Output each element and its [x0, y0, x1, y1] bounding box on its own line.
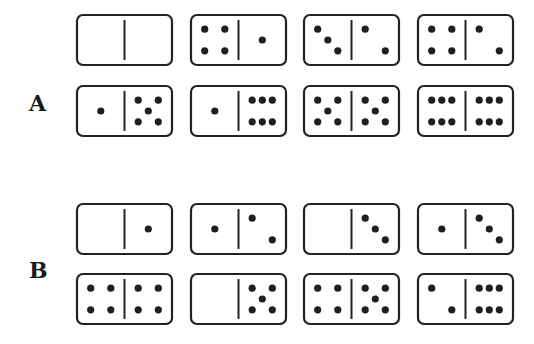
- pip-right: [382, 118, 389, 125]
- pip-right: [382, 306, 389, 313]
- pip-left: [211, 225, 218, 232]
- pip-right: [486, 225, 493, 232]
- domino-a-2-3: [304, 86, 399, 136]
- pip-right: [155, 97, 162, 104]
- pip-right: [269, 97, 276, 104]
- pip-right: [486, 97, 493, 104]
- pip-left: [448, 118, 455, 125]
- pip-right: [362, 306, 369, 313]
- pip-right: [145, 225, 152, 232]
- domino-b-2-1: [77, 274, 172, 324]
- pip-right: [249, 215, 256, 222]
- pip-right: [269, 285, 276, 292]
- pip-left: [334, 47, 341, 54]
- domino-b-2-3: [304, 274, 399, 324]
- pip-left: [438, 225, 445, 232]
- pip-right: [135, 118, 142, 125]
- pip-right: [372, 295, 379, 302]
- pip-right: [476, 97, 483, 104]
- pip-left: [334, 118, 341, 125]
- pip-left: [314, 26, 321, 33]
- pip-left: [324, 36, 331, 43]
- pip-left: [87, 285, 94, 292]
- pip-right: [382, 47, 389, 54]
- pip-left: [334, 97, 341, 104]
- domino-b-2-2: [191, 274, 286, 324]
- pip-right: [155, 285, 162, 292]
- pip-right: [486, 118, 493, 125]
- pip-left: [314, 118, 321, 125]
- pip-right: [155, 118, 162, 125]
- pip-left: [97, 107, 104, 114]
- pip-right: [249, 306, 256, 313]
- pip-right: [362, 215, 369, 222]
- pip-right: [135, 306, 142, 313]
- pip-right: [476, 118, 483, 125]
- pip-right: [372, 107, 379, 114]
- pip-right: [496, 236, 503, 243]
- pip-left: [448, 47, 455, 54]
- pip-right: [362, 285, 369, 292]
- pip-left: [221, 26, 228, 33]
- pip-left: [87, 306, 94, 313]
- pip-right: [496, 285, 503, 292]
- pip-left: [334, 306, 341, 313]
- pip-right: [259, 118, 266, 125]
- pip-left: [428, 97, 435, 104]
- pip-left: [428, 47, 435, 54]
- pip-right: [135, 285, 142, 292]
- pip-right: [259, 97, 266, 104]
- pip-right: [496, 47, 503, 54]
- pip-right: [476, 306, 483, 313]
- pip-right: [486, 306, 493, 313]
- pip-right: [259, 295, 266, 302]
- pip-left: [107, 306, 114, 313]
- pip-left: [438, 118, 445, 125]
- domino-a-1-4: [418, 15, 513, 65]
- pip-right: [476, 215, 483, 222]
- pip-left: [438, 97, 445, 104]
- pip-right: [496, 118, 503, 125]
- pip-right: [372, 225, 379, 232]
- pip-right: [135, 97, 142, 104]
- domino-a-2-2: [191, 86, 286, 136]
- pip-left: [211, 107, 218, 114]
- domino-b-1-3: [304, 204, 399, 254]
- domino-b-1-1: [77, 204, 172, 254]
- domino-a-1-3: [304, 15, 399, 65]
- domino-b-1-4: [418, 204, 513, 254]
- pip-left: [428, 285, 435, 292]
- pip-left: [448, 97, 455, 104]
- domino-a-1-1: [77, 15, 172, 65]
- pip-right: [362, 118, 369, 125]
- pip-left: [448, 26, 455, 33]
- pip-right: [476, 26, 483, 33]
- pip-right: [269, 236, 276, 243]
- pip-right: [382, 285, 389, 292]
- pip-right: [496, 306, 503, 313]
- pip-right: [259, 36, 266, 43]
- pip-right: [269, 306, 276, 313]
- domino-a-2-4: [418, 86, 513, 136]
- domino-board: [0, 0, 534, 344]
- pip-right: [382, 236, 389, 243]
- domino-a-2-1: [77, 86, 172, 136]
- pip-left: [107, 285, 114, 292]
- pip-left: [201, 47, 208, 54]
- pip-right: [249, 118, 256, 125]
- pip-left: [314, 306, 321, 313]
- pip-right: [362, 97, 369, 104]
- domino-a-1-2: [191, 15, 286, 65]
- pip-left: [314, 97, 321, 104]
- pip-left: [201, 26, 208, 33]
- domino-b-1-2: [191, 204, 286, 254]
- pip-right: [249, 97, 256, 104]
- pip-right: [496, 97, 503, 104]
- pip-left: [324, 107, 331, 114]
- pip-right: [155, 306, 162, 313]
- pip-right: [269, 118, 276, 125]
- pip-left: [428, 118, 435, 125]
- pip-left: [314, 285, 321, 292]
- pip-right: [382, 97, 389, 104]
- pip-left: [428, 26, 435, 33]
